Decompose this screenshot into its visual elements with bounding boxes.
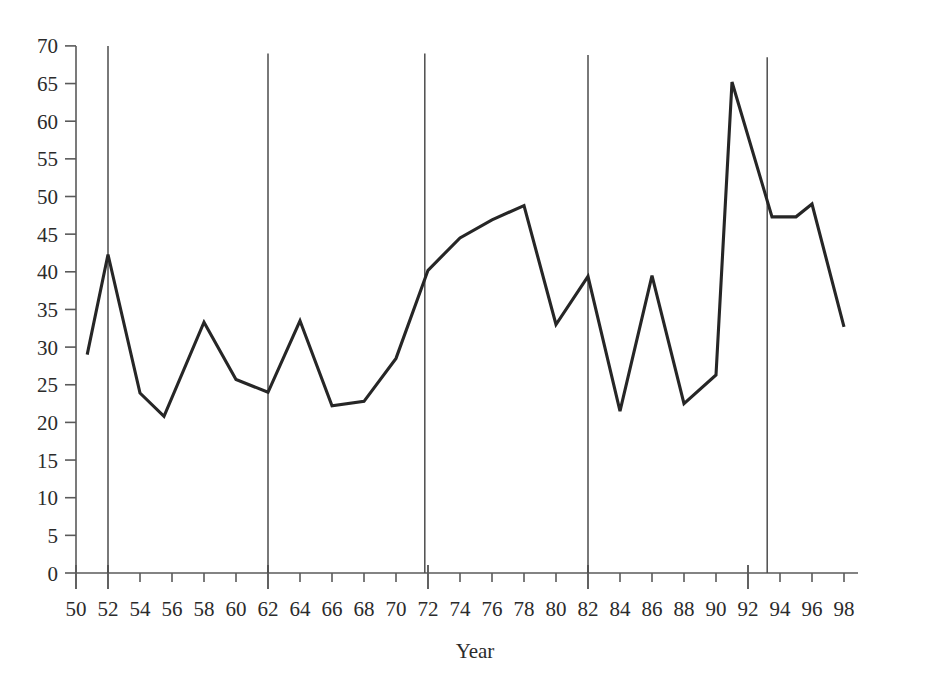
y-tick-label: 15 [37,449,58,473]
x-tick-label: 82 [578,597,599,621]
x-tick-label: 74 [450,597,472,621]
x-tick-label: 68 [354,597,375,621]
x-tick-label: 62 [258,597,279,621]
y-tick-label: 70 [37,34,58,58]
x-tick-label: 66 [322,597,343,621]
x-tick-label: 56 [162,597,183,621]
x-tick-label: 60 [226,597,247,621]
x-tick-label: 70 [386,597,407,621]
x-tick-label: 54 [130,597,152,621]
x-tick-label: 58 [194,597,215,621]
x-tick-label: 96 [802,597,823,621]
y-tick-label: 35 [37,298,58,322]
x-tick-label: 86 [642,597,663,621]
x-tick-label: 50 [66,597,87,621]
x-tick-label: 72 [418,597,439,621]
x-tick-label: 92 [738,597,759,621]
y-tick-label: 65 [37,72,58,96]
y-tick-label: 60 [37,110,58,134]
x-tick-label: 88 [674,597,695,621]
x-tick-label: 98 [834,597,855,621]
series-line-series-1 [87,82,844,416]
x-tick-label: 76 [482,597,503,621]
y-axis: 0510152025303540455055606570 [37,34,76,585]
y-tick-label: 30 [37,336,58,360]
x-tick-label: 52 [98,597,119,621]
x-tick-label: 84 [610,597,632,621]
y-tick-label: 5 [48,524,59,548]
y-tick-label: 25 [37,373,58,397]
y-tick-label: 0 [48,562,59,586]
line-chart: 0510152025303540455055606570 50525456586… [0,0,950,689]
y-tick-label: 55 [37,147,58,171]
data-series [87,82,844,416]
y-tick-label: 20 [37,411,58,435]
x-tick-label: 94 [770,597,792,621]
x-tick-label: 64 [290,597,312,621]
y-tick-label: 40 [37,260,58,284]
x-tick-label: 78 [514,597,535,621]
x-axis-title: Year [456,639,495,663]
x-tick-label: 90 [706,597,727,621]
event-reference-lines [108,46,767,573]
y-tick-label: 50 [37,185,58,209]
y-tick-label: 10 [37,486,58,510]
chart-container: 0510152025303540455055606570 50525456586… [0,0,950,689]
y-tick-label: 45 [37,223,58,247]
x-axis: 5052545658606264666870727476788082848688… [66,565,859,621]
x-tick-label: 80 [546,597,567,621]
